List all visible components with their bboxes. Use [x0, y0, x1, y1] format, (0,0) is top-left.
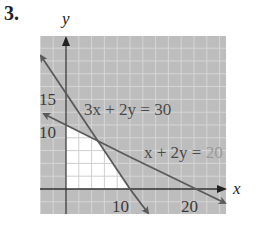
- equation-label-x-2y-20: x + 2y = 20: [144, 143, 223, 162]
- y-axis-label: y: [60, 9, 70, 28]
- graph: y x 15 10 10 20 3x + 2y = 30 x + 2y = 20: [0, 0, 267, 231]
- x-tick-10: 10: [112, 197, 129, 216]
- y-tick-10: 10: [39, 123, 56, 142]
- x-axis-label: x: [232, 179, 241, 198]
- x-tick-20: 20: [181, 197, 198, 216]
- equation-left: x + 2y =: [144, 143, 206, 162]
- equation-label-3x-2y-30: 3x + 2y = 30: [84, 100, 171, 119]
- y-tick-15: 15: [39, 90, 56, 109]
- equation-right: 20: [206, 143, 223, 162]
